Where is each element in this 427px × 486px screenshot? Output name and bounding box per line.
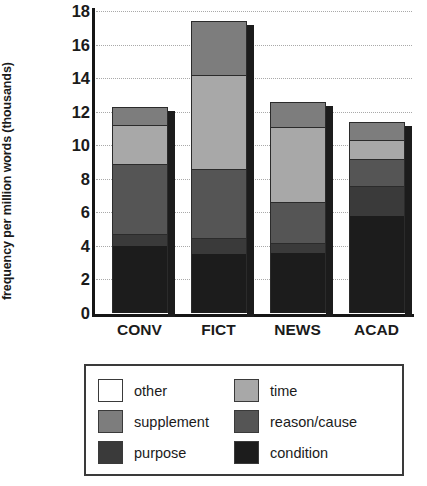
legend-item-reason-cause[interactable]: reason/cause [234, 410, 394, 433]
bar-segment-conv-supplement[interactable] [112, 107, 168, 125]
bar-segment-fict-supplement[interactable] [191, 21, 247, 75]
bar-segment-conv-purpose[interactable] [112, 234, 168, 246]
y-axis-tick-18: 18 [52, 2, 90, 21]
legend-grid: othertimesupplementreason/causepurposeco… [98, 375, 394, 468]
swatch-purpose [98, 441, 123, 464]
swatch-other [98, 379, 123, 402]
y-axis-tick-4: 4 [52, 236, 90, 255]
swatch-reason-cause [234, 410, 259, 433]
swatch-time [234, 379, 259, 402]
y-axis-tick-8: 8 [52, 169, 90, 188]
bar-segment-acad-supplement[interactable] [349, 122, 405, 140]
legend-item-time[interactable]: time [234, 379, 394, 402]
gridline-14 [96, 78, 412, 79]
x-axis-label-acad: ACAD [337, 321, 417, 339]
bar-conv[interactable] [112, 107, 168, 313]
bar-segment-acad-purpose[interactable] [349, 186, 405, 216]
legend-item-other[interactable]: other [98, 379, 234, 402]
bar-news[interactable] [270, 102, 326, 313]
bar-fict[interactable] [191, 21, 247, 313]
legend-label-condition: condition [270, 445, 328, 461]
y-axis-tick-12: 12 [52, 102, 90, 121]
legend-label-other: other [134, 383, 167, 399]
bar-segment-fict-time[interactable] [191, 75, 247, 169]
bar-segment-fict-reason-cause[interactable] [191, 169, 247, 238]
y-axis-tick-16: 16 [52, 35, 90, 54]
legend-label-purpose: purpose [134, 445, 186, 461]
chart-legend: othertimesupplementreason/causepurposeco… [84, 364, 404, 476]
bar-segment-acad-reason-cause[interactable] [349, 159, 405, 186]
bar-shadow-news [326, 106, 333, 317]
swatch-supplement [98, 410, 123, 433]
y-axis-tick-10: 10 [52, 136, 90, 155]
plot-area [96, 11, 412, 313]
bar-segment-fict-purpose[interactable] [191, 238, 247, 255]
gridline-16 [96, 45, 412, 46]
y-axis-line [92, 8, 95, 317]
bar-shadow-acad [405, 126, 412, 317]
bar-shadow-fict [247, 25, 254, 317]
bar-segment-acad-time[interactable] [349, 140, 405, 158]
bar-segment-news-condition[interactable] [270, 253, 326, 313]
bar-shadow-conv [168, 111, 175, 317]
legend-item-purpose[interactable]: purpose [98, 441, 234, 464]
y-axis-tick-0: 0 [52, 304, 90, 323]
legend-item-condition[interactable]: condition [234, 441, 394, 464]
bar-segment-news-purpose[interactable] [270, 243, 326, 253]
bar-segment-conv-reason-cause[interactable] [112, 164, 168, 234]
gridline-18 [96, 11, 412, 12]
y-axis-tick-6: 6 [52, 203, 90, 222]
x-axis-label-fict: FICT [179, 321, 259, 339]
bar-segment-news-reason-cause[interactable] [270, 202, 326, 242]
y-axis-tick-2: 2 [52, 270, 90, 289]
bar-segment-news-supplement[interactable] [270, 102, 326, 127]
legend-label-supplement: supplement [134, 414, 209, 430]
bar-segment-conv-time[interactable] [112, 125, 168, 164]
legend-label-reason-cause: reason/cause [270, 414, 357, 430]
y-axis-tick-14: 14 [52, 69, 90, 88]
x-axis-label-conv: CONV [100, 321, 180, 339]
swatch-condition [234, 441, 259, 464]
y-axis-tick-labels: 024681012141618 [46, 0, 90, 320]
y-axis-title: frequency per million words (thousands) [0, 0, 36, 320]
legend-item-supplement[interactable]: supplement [98, 410, 234, 433]
bar-segment-acad-condition[interactable] [349, 216, 405, 313]
bar-acad[interactable] [349, 122, 405, 313]
bar-segment-conv-condition[interactable] [112, 246, 168, 313]
y-axis-title-text: frequency per million words (thousands) [0, 0, 15, 300]
x-axis-label-news: NEWS [258, 321, 338, 339]
bar-segment-news-time[interactable] [270, 127, 326, 203]
bar-segment-fict-condition[interactable] [191, 254, 247, 313]
legend-label-time: time [270, 383, 297, 399]
